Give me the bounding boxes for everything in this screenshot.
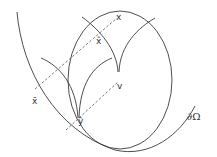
ellipse-ball: [68, 11, 172, 149]
label-x-bar: x̄: [32, 96, 38, 106]
label-y-hat: ŷ: [78, 116, 84, 126]
diagram-canvas: x x̂ v x̄ ŷ ∂Ω: [0, 0, 217, 157]
right-upper-arc: [119, 18, 155, 72]
label-boundary: ∂Ω: [187, 111, 200, 122]
label-x: x: [116, 12, 122, 22]
label-x-hat: x̂: [96, 36, 102, 46]
dashed-line-xbar-to-x: [35, 18, 117, 89]
right-lower-arc: [79, 58, 112, 118]
dashed-line-ybar-to-v: [66, 82, 118, 130]
label-v: v: [117, 81, 123, 91]
